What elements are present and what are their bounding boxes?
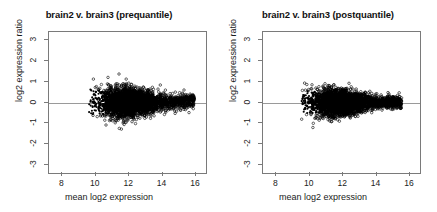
x-tick-label: 12 [123, 178, 132, 188]
y-tick-label: -3 [242, 157, 252, 171]
x-tick [309, 172, 310, 176]
x-tick [409, 172, 410, 176]
y-tick [44, 164, 48, 165]
panel-title: brain2 v. brain3 (prequantile) [0, 9, 218, 20]
x-tick [342, 172, 343, 176]
y-axis-label: log2 expression ratio [228, 19, 238, 102]
x-tick-label: 16 [404, 178, 413, 188]
x-tick-label: 16 [190, 178, 199, 188]
x-tick-label: 14 [157, 178, 166, 188]
y-tick-label: 2 [28, 53, 38, 67]
y-tick-label: -2 [242, 136, 252, 150]
y-tick-label: 0 [242, 95, 252, 109]
x-tick [95, 172, 96, 176]
y-tick [258, 60, 262, 61]
x-tick-label: 10 [90, 178, 99, 188]
y-tick-label: 2 [242, 53, 252, 67]
y-tick [258, 81, 262, 82]
y-tick [44, 122, 48, 123]
y-tick [44, 39, 48, 40]
y-tick-label: 3 [242, 32, 252, 46]
y-tick [258, 143, 262, 144]
scatter-points [263, 32, 420, 173]
y-tick-label: 1 [28, 74, 38, 88]
y-tick [258, 102, 262, 103]
y-tick-label: 1 [242, 74, 252, 88]
y-tick-label: -1 [28, 115, 38, 129]
x-tick-label: 8 [273, 178, 278, 188]
x-tick-label: 8 [59, 178, 64, 188]
scatter-points [49, 32, 206, 173]
plot-area [48, 31, 207, 174]
y-tick [258, 122, 262, 123]
y-tick [44, 143, 48, 144]
x-tick-label: 12 [337, 178, 346, 188]
y-tick [44, 102, 48, 103]
y-axis-label: log2 expression ratio [14, 19, 24, 102]
panel-title: brain2 v. brain3 (postquantile) [219, 9, 437, 20]
ma-plot-figure: brain2 v. brain3 (prequantile) 3210-1-2-… [0, 0, 437, 212]
y-tick [258, 164, 262, 165]
x-axis-label: mean log2 expression [214, 192, 432, 202]
plot-area [262, 31, 421, 174]
y-tick-label: -3 [28, 157, 38, 171]
x-tick-label: 10 [304, 178, 313, 188]
y-tick [44, 81, 48, 82]
x-tick [61, 172, 62, 176]
panel-prequantile: brain2 v. brain3 (prequantile) 3210-1-2-… [0, 0, 218, 212]
x-axis-label: mean log2 expression [0, 192, 218, 202]
x-tick [162, 172, 163, 176]
x-tick [376, 172, 377, 176]
x-tick [275, 172, 276, 176]
y-tick-label: 0 [28, 95, 38, 109]
x-tick [195, 172, 196, 176]
y-tick [258, 39, 262, 40]
panel-postquantile: brain2 v. brain3 (postquantile) 3210-1-2… [219, 0, 437, 212]
y-tick [44, 60, 48, 61]
y-tick-label: -1 [242, 115, 252, 129]
x-tick-label: 14 [371, 178, 380, 188]
x-tick [128, 172, 129, 176]
y-tick-label: -2 [28, 136, 38, 150]
y-tick-label: 3 [28, 32, 38, 46]
